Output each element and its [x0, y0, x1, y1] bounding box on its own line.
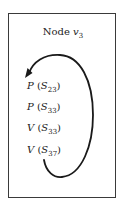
loop-arrow-icon — [0, 0, 126, 216]
